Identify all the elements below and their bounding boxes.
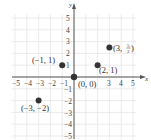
y-tick: −3: [64, 109, 72, 118]
fraction-numerator: 5: [127, 43, 130, 48]
y-tick: −2: [64, 97, 72, 106]
point-3-5over2: [106, 45, 112, 51]
y-tick: 5: [66, 14, 70, 23]
x-tick: −5: [12, 79, 20, 88]
point-label: (−3, −2): [21, 103, 49, 113]
coordinate-plane: x y −5 −4 −3 −2 −1 3 4 5 1 2 3 4 5 −1 −2…: [0, 0, 151, 140]
x-tick: −4: [24, 79, 32, 88]
y-axis-arrow-icon: [72, 3, 76, 9]
y-tick: 4: [66, 26, 70, 35]
y-tick: −4: [64, 120, 72, 129]
point-label: (2, 1): [99, 65, 118, 75]
x-tick: 4: [119, 79, 123, 88]
y-tick: 2: [66, 49, 70, 58]
point-label-close: ): [131, 43, 134, 53]
point-neg1-1: [59, 62, 65, 68]
x-tick: 5: [131, 79, 135, 88]
x-tick: 3: [107, 79, 111, 88]
y-axis-label: y: [68, 1, 73, 9]
x-tick: −3: [36, 79, 44, 88]
x-axis-label: x: [144, 75, 149, 83]
fraction-denominator: 2: [127, 49, 130, 54]
y-tick: 1: [66, 61, 70, 70]
point-label: (3,: [113, 43, 122, 53]
y-tick: −5: [64, 132, 72, 140]
y-tick: −1: [64, 85, 72, 94]
point-label: (0, 0): [78, 79, 97, 89]
point-origin: [71, 74, 77, 80]
x-tick: −2: [48, 79, 56, 88]
y-tick: 3: [66, 37, 70, 46]
point-label: (−1, 1): [32, 55, 55, 65]
